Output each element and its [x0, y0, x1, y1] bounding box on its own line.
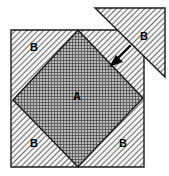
geometry-figure: A B B B B — [0, 0, 169, 176]
label-region-b-botright: B — [119, 137, 127, 149]
label-region-b-detached: B — [140, 30, 148, 42]
label-region-a-center: A — [73, 90, 81, 102]
label-region-b-botleft: B — [30, 137, 38, 149]
geometry-canvas: A B B B B — [0, 0, 169, 176]
label-region-b-topleft: B — [30, 41, 38, 53]
